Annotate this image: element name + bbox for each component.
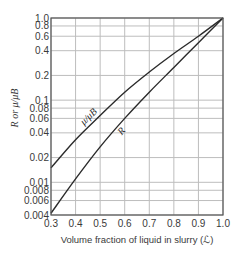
x-tick-label: 0.3 [44,218,58,229]
x-tick-label: 0.4 [69,218,83,229]
grid [51,18,223,215]
x-axis-label: Volume fraction of liquid in slurry (ℒ) [61,234,214,245]
curves: μ/μBR [51,18,223,213]
x-tick-label: 0.5 [93,218,107,229]
y-tick-label: 0.4 [35,45,49,56]
x-tick-label: 0.8 [167,218,181,229]
y-tick-label: 0.6 [35,31,49,42]
y-tick-label: 0.01 [30,177,50,188]
y-tick-label: 0.06 [30,113,50,124]
series-r-line [51,18,223,213]
y-axis-label: R or μ/μB [9,89,20,129]
x-tick-label: 0.6 [118,218,132,229]
y-tick-label: 0.2 [35,70,49,81]
series-mu-ratio-line [51,18,223,168]
y-tick-label: 0.04 [30,127,50,138]
x-tick-label: 1.0 [216,218,230,229]
x-tick-label: 0.7 [142,218,156,229]
y-tick-label: 0.1 [35,95,49,106]
x-tick-labels: 0.30.40.50.60.70.80.91.0 [44,218,230,229]
y-tick-labels: 0.0040.0060.0080.010.020.040.060.080.10.… [24,13,49,221]
y-tick-label: 0.006 [24,195,49,206]
chart: 0.0040.0060.0080.010.020.040.060.080.10.… [0,0,239,254]
y-tick-label: 1.0 [35,13,49,24]
plot-frame [51,18,223,215]
x-tick-label: 0.9 [191,218,205,229]
series-r-label: R [114,125,127,138]
y-tick-label: 0.02 [30,152,50,163]
series-mu-ratio-label: μ/μB [77,106,99,128]
